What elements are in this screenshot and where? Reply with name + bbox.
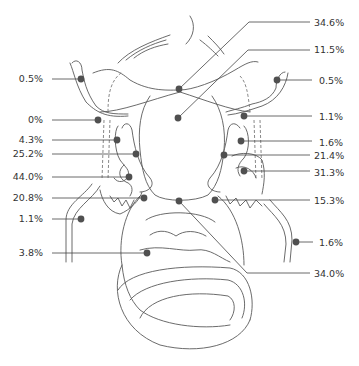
- callout-cervix-body: 3.8%: [19, 247, 151, 258]
- callout-label: 3.8%: [19, 247, 43, 258]
- marker-dot: [144, 250, 151, 257]
- callout-left-tube-fimbria-top: 0.5%: [19, 73, 85, 84]
- callout-right-ovary-lower: 15.3%: [212, 195, 345, 206]
- callout-label: 31.3%: [314, 167, 344, 178]
- callout-left-tube-isthmus: 0%: [28, 114, 101, 125]
- callout-label: 0.5%: [19, 73, 43, 84]
- callout-right-tube-ampulla: 1.6%: [238, 137, 344, 148]
- marker-dot: [126, 174, 133, 181]
- anatomy-outline: [66, 16, 292, 349]
- callout-left-ligament: 1.1%: [19, 213, 85, 224]
- marker-dot: [78, 216, 85, 223]
- marker-dot: [274, 77, 281, 84]
- callout-label: 34.0%: [314, 268, 344, 279]
- marker-dot: [221, 152, 228, 159]
- callout-right-ovary-upper: 21.4%: [221, 150, 345, 161]
- marker-dot: [175, 115, 182, 122]
- marker-dot: [176, 198, 183, 205]
- callout-left-tube-ampulla-upper: 4.3%: [19, 134, 121, 145]
- callout-right-tube-fimbria-top: 0.5%: [274, 75, 344, 86]
- callout-label: 34.6%: [314, 17, 344, 28]
- marker-dot: [133, 151, 140, 158]
- callout-right-ligament: 1.6%: [293, 237, 344, 248]
- leader-line: [178, 50, 310, 118]
- callout-label: 0%: [28, 114, 43, 125]
- callout-label: 21.4%: [314, 150, 344, 161]
- callout-label: 1.6%: [319, 137, 343, 148]
- callout-label: 20.8%: [13, 192, 43, 203]
- callout-label: 15.3%: [314, 195, 344, 206]
- callout-label: 1.1%: [319, 111, 343, 122]
- leader-line: [179, 22, 310, 89]
- callout-left-ovary-upper: 25.2%: [13, 148, 140, 159]
- callout-left-ovary-lower: 20.8%: [13, 192, 148, 203]
- marker-dot: [241, 168, 248, 175]
- callout-label: 11.5%: [314, 44, 344, 55]
- anatomy-diagram: 0.5% 0% 4.3% 25.2% 44.0% 20.8%: [0, 0, 359, 366]
- callout-label: 0.5%: [319, 75, 343, 86]
- marker-dot: [95, 117, 102, 124]
- marker-dot: [293, 239, 300, 246]
- marker-dot: [114, 137, 121, 144]
- marker-dot: [78, 76, 85, 83]
- marker-dot: [238, 138, 245, 145]
- marker-dot: [241, 113, 248, 120]
- callout-label: 44.0%: [13, 171, 43, 182]
- marker-dot: [176, 86, 183, 93]
- callout-label: 4.3%: [19, 134, 43, 145]
- callout-label: 1.6%: [319, 237, 343, 248]
- callouts: 0.5% 0% 4.3% 25.2% 44.0% 20.8%: [13, 17, 344, 279]
- callout-label: 1.1%: [19, 213, 43, 224]
- callout-label: 25.2%: [13, 148, 43, 159]
- callout-left-ovary-mid: 44.0%: [13, 171, 133, 182]
- marker-dot: [212, 197, 219, 204]
- callout-right-tube-isthmus: 1.1%: [241, 111, 344, 122]
- marker-dot: [141, 195, 148, 202]
